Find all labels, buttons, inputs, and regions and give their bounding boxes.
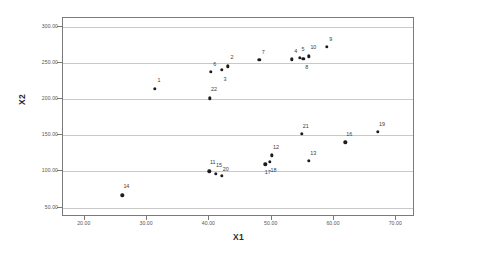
data-point-label: 13 <box>310 150 316 156</box>
y-axis-tick-label: 300.00 <box>42 23 58 29</box>
data-point-label: 22 <box>211 86 217 92</box>
data-point <box>214 172 217 175</box>
data-point-label: 4 <box>294 48 297 54</box>
gridline-horizontal <box>63 208 413 209</box>
data-point <box>270 154 273 157</box>
gridline-horizontal <box>63 63 413 64</box>
plot-area: 12345678910111213141516171819202122 <box>62 17 414 216</box>
data-point-label: 21 <box>303 123 309 129</box>
x-axis-title: X1 <box>0 232 477 242</box>
y-axis-tick-label: 50.00 <box>45 204 58 210</box>
x-axis-tick-label: 30.00 <box>139 220 152 226</box>
data-point <box>153 87 156 90</box>
data-point <box>307 55 310 58</box>
data-point-label: 12 <box>273 144 279 150</box>
data-point <box>264 162 267 165</box>
data-point-label: 2 <box>230 54 233 60</box>
data-point <box>120 194 123 197</box>
data-point-label: 18 <box>270 167 276 173</box>
y-axis-tick-label: 250.00 <box>42 59 58 65</box>
data-point <box>344 141 347 144</box>
x-axis-tick-label: 20.00 <box>77 220 90 226</box>
data-point <box>208 170 211 173</box>
gridline-horizontal <box>63 171 413 172</box>
gridline-horizontal <box>63 135 413 136</box>
data-point-label: 9 <box>329 36 332 42</box>
data-point-label: 5 <box>302 46 305 52</box>
data-point-label: 16 <box>346 131 352 137</box>
gridline-horizontal <box>63 99 413 100</box>
data-point-label: 10 <box>310 44 316 50</box>
x-axis-tick-label: 70.00 <box>389 220 402 226</box>
data-point-label: 20 <box>223 166 229 172</box>
data-point <box>302 57 305 60</box>
data-point <box>209 70 212 73</box>
data-point-label: 1 <box>157 77 160 83</box>
y-axis-tick-label: 150.00 <box>42 131 58 137</box>
data-point <box>226 65 229 68</box>
data-point-label: 7 <box>262 49 265 55</box>
data-point-label: 15 <box>216 162 222 168</box>
data-point <box>258 58 261 61</box>
data-point-label: 6 <box>213 61 216 67</box>
data-point-label: 8 <box>305 64 308 70</box>
data-point <box>220 68 223 71</box>
data-point-label: 3 <box>223 76 226 82</box>
data-point <box>220 174 223 177</box>
data-point <box>307 159 310 162</box>
y-axis-tick-label: 100.00 <box>42 167 58 173</box>
data-point-label: 19 <box>379 121 385 127</box>
y-axis-title: X2 <box>17 94 27 105</box>
y-axis-tick-label: 200.00 <box>42 95 58 101</box>
x-axis-tick-label: 60.00 <box>326 220 339 226</box>
data-point <box>268 160 271 163</box>
data-point <box>325 45 328 48</box>
x-axis-tick-label: 40.00 <box>202 220 215 226</box>
data-point-label: 14 <box>123 183 129 189</box>
data-point <box>376 130 379 133</box>
scatter-chart: 12345678910111213141516171819202122 300.… <box>0 0 477 255</box>
x-axis-tick-label: 50.00 <box>264 220 277 226</box>
data-point-label: 11 <box>210 159 216 165</box>
gridline-horizontal <box>63 27 413 28</box>
data-point <box>290 58 293 61</box>
